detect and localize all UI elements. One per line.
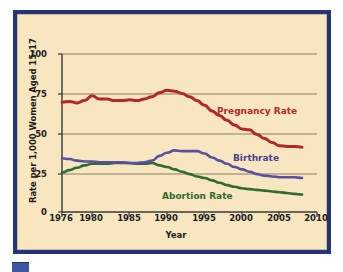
series-line-pregnancy-rate <box>62 90 302 147</box>
annotation-pregnancy-rate: Pregnancy Rate <box>217 106 297 116</box>
annotation-abortion-rate: Abortion Rate <box>162 191 233 201</box>
x-axis-label: Year <box>17 230 335 240</box>
annotation-birthrate: Birthrate <box>233 153 279 163</box>
x-axis-ticks <box>62 212 317 217</box>
chart-svg <box>17 14 335 258</box>
corner-marker <box>12 262 29 272</box>
chart-frame: Rate per 1,000 Women Aged 15–17 100 75 5… <box>13 10 331 254</box>
plot-area: Rate per 1,000 Women Aged 15–17 100 75 5… <box>17 14 335 258</box>
series-line-abortion-rate <box>62 163 302 195</box>
